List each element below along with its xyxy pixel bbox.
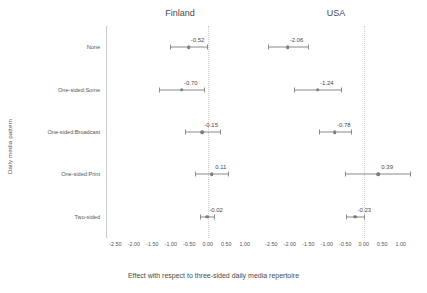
ci-upper-cap (308, 45, 309, 50)
ci-lower-cap (319, 130, 320, 135)
x-axis-tick-label: 1.00 (396, 241, 407, 247)
facet-title-finland: Finland (106, 8, 254, 18)
ci-lower-cap (159, 87, 160, 92)
ci-lower-cap (268, 45, 269, 50)
ci-upper-cap (204, 87, 205, 92)
estimate-value-label: -0.23 (357, 207, 371, 213)
estimate-point (180, 88, 184, 92)
chart-root: Daily media pattern NoneOne-sided:SomeOn… (0, 0, 427, 293)
estimate-value-label: -0.78 (337, 122, 351, 128)
ci-lower-cap (294, 87, 295, 92)
x-axis-tick-label: -2.50 (109, 241, 121, 247)
x-axis-tick-label: -2.50 (265, 241, 277, 247)
estimate-value-label: 0.11 (215, 164, 226, 170)
category-label-column: NoneOne-sided:SomeOne-sided:BroadcastOne… (18, 26, 104, 238)
x-axis-tick-label: 1.00 (240, 241, 251, 247)
ci-lower-cap (195, 172, 196, 177)
estimate-value-label: -0.02 (209, 207, 223, 213)
x-axis-finland: -2.50-2.00-1.50-1.00-0.500.000.501.00 (106, 238, 254, 254)
ci-lower-cap (185, 130, 186, 135)
ci-upper-cap (228, 172, 229, 177)
ci-lower-cap (345, 172, 346, 177)
facet-panel-usa: USA -2.06-1.24-0.780.39-0.23 (262, 26, 410, 238)
estimate-point (210, 173, 214, 177)
ci-upper-cap (364, 214, 365, 219)
x-axis-tick-label: 0.00 (203, 241, 214, 247)
ci-upper-cap (214, 214, 215, 219)
ci-lower-cap (200, 214, 201, 219)
estimate-value-label: -0.15 (204, 122, 218, 128)
ci-upper-cap (410, 172, 411, 177)
category-label: One-sided:Print (61, 171, 100, 177)
category-label: One-sided:Some (58, 87, 100, 93)
y-axis-title-text: Daily media pattern (7, 119, 14, 174)
estimate-point (376, 173, 380, 177)
estimate-value-label: -2.06 (290, 37, 304, 43)
ci-upper-cap (220, 130, 221, 135)
x-axis-tick-label: -1.50 (146, 241, 158, 247)
estimate-value-label: -1.24 (320, 80, 334, 86)
estimate-value-label: -0.52 (191, 37, 205, 43)
ci-upper-cap (351, 130, 352, 135)
estimate-point (187, 45, 191, 49)
x-axis-tick-label: 0.00 (359, 241, 370, 247)
y-axis-spine (106, 26, 107, 238)
x-axis-tick-label: -1.00 (321, 241, 333, 247)
estimate-point (333, 130, 337, 134)
x-axis-tick-label: -1.00 (165, 241, 177, 247)
facet-title-usa: USA (262, 8, 410, 18)
category-label: Two-sided (75, 214, 101, 220)
ci-lower-cap (170, 45, 171, 50)
x-axis-tick-label: -0.50 (339, 241, 351, 247)
x-axis-tick-label: -2.00 (284, 241, 296, 247)
x-axis-tick-label: 0.50 (377, 241, 388, 247)
ci-upper-cap (207, 45, 208, 50)
x-axis-tick-label: 0.50 (221, 241, 232, 247)
estimate-point (286, 45, 290, 49)
estimate-point (353, 215, 357, 219)
category-label: None (87, 44, 100, 50)
ci-lower-cap (346, 214, 347, 219)
x-axis-tick-label: -2.00 (128, 241, 140, 247)
x-axis-title: Effect with respect to three-sided daily… (0, 272, 427, 279)
x-axis-usa: -2.50-2.00-1.50-1.00-0.500.000.501.00 (262, 238, 410, 254)
category-label: One-sided:Broadcast (47, 129, 100, 135)
estimate-point (205, 215, 209, 219)
y-axis-title: Daily media pattern (2, 0, 18, 293)
estimate-value-label: -0.70 (184, 80, 198, 86)
estimate-point (316, 88, 320, 92)
x-axis-tick-label: -1.50 (302, 241, 314, 247)
ci-upper-cap (341, 87, 342, 92)
facet-panel-finland: Finland -0.52-0.70-0.150.11-0.02 (106, 26, 254, 238)
estimate-point (200, 130, 204, 134)
estimate-value-label: 0.39 (381, 164, 393, 170)
x-axis-tick-label: -0.50 (183, 241, 195, 247)
